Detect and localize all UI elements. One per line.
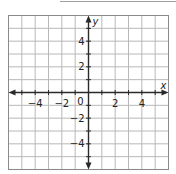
y-tick-label: 4 bbox=[78, 36, 84, 47]
x-tick-label: −4 bbox=[28, 98, 43, 109]
origin-label: 0 bbox=[77, 96, 83, 107]
y-tick-label: −2 bbox=[70, 113, 85, 124]
coordinate-grid-svg: −4−22442−2−40xy bbox=[0, 0, 176, 174]
y-axis-label: y bbox=[92, 16, 100, 27]
x-tick-label: 2 bbox=[112, 98, 118, 109]
y-axis-down-arrow-icon bbox=[86, 163, 92, 170]
y-axis-up-arrow-icon bbox=[86, 16, 92, 23]
x-tick-label: −2 bbox=[54, 98, 69, 109]
x-axis-left-arrow-icon bbox=[9, 90, 16, 96]
x-axis-label: x bbox=[160, 80, 167, 91]
x-tick-label: 4 bbox=[139, 98, 145, 109]
coordinate-plane: −4−22442−2−40xy bbox=[0, 0, 176, 174]
y-tick-label: −4 bbox=[70, 138, 85, 149]
y-tick-label: 2 bbox=[78, 61, 84, 72]
